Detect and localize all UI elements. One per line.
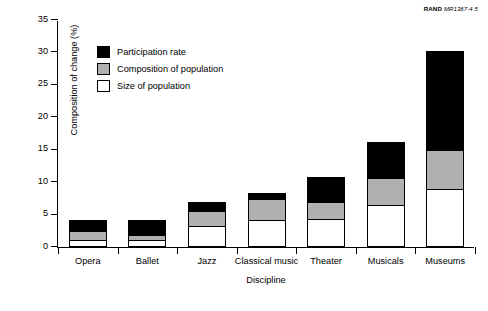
- x-axis-tick: [237, 247, 238, 254]
- bar-opera[interactable]: [69, 220, 107, 247]
- y-axis-tick: 30: [51, 51, 58, 52]
- bar-segment: [307, 177, 345, 202]
- bar-ballet[interactable]: [128, 220, 166, 247]
- rand-logo-text: RAND: [424, 5, 442, 12]
- bar-segment: [188, 202, 226, 212]
- x-axis-tick-label-museums: Museums: [425, 256, 465, 266]
- x-axis-tick-label-jazz: Jazz: [197, 256, 216, 266]
- y-axis-tick-label: 20: [38, 111, 48, 121]
- bar-segment: [426, 51, 464, 150]
- bar-segment: [307, 219, 345, 247]
- y-axis-tick-label: 35: [38, 14, 48, 24]
- legend-label-participation-rate: Participation rate: [117, 47, 186, 57]
- plot-area: Composition of change (%) 05101520253035…: [57, 21, 474, 248]
- figure: RANDMR1367-4.5 Composition of change (%)…: [0, 0, 488, 311]
- bar-musicals[interactable]: [367, 142, 405, 247]
- x-axis-tick-label-opera: Opera: [75, 256, 101, 266]
- bar-segment: [248, 199, 286, 220]
- y-axis-tick-label: 30: [38, 46, 48, 56]
- x-axis-tick-label-ballet: Ballet: [136, 256, 159, 266]
- source-credit: RANDMR1367-4.5: [424, 5, 478, 12]
- y-axis-tick: 35: [51, 19, 58, 20]
- bar-segment: [248, 220, 286, 247]
- legend-swatch-participation-rate: [97, 46, 110, 58]
- x-axis-tick: [475, 247, 476, 254]
- y-axis-tick: 10: [51, 181, 58, 182]
- legend-swatch-composition-of-population: [97, 63, 110, 75]
- bar-segment: [367, 178, 405, 205]
- x-axis-tick: [118, 247, 119, 254]
- y-axis-tick-label: 25: [38, 78, 48, 88]
- document-id: MR1367-4.5: [444, 6, 478, 12]
- legend-label-size-of-population: Size of population: [117, 81, 190, 91]
- legend-item-size-of-population: Size of population: [97, 77, 223, 94]
- x-axis-tick-label-musicals: Musicals: [368, 256, 404, 266]
- bar-museums[interactable]: [426, 51, 464, 247]
- y-axis-tick-label: 5: [43, 208, 48, 218]
- legend: Participation rate Composition of popula…: [97, 43, 223, 94]
- y-axis-tick: 0: [51, 246, 58, 247]
- legend-swatch-size-of-population: [97, 80, 110, 92]
- x-axis-label: Discipline: [58, 275, 474, 285]
- bar-segment: [188, 211, 226, 226]
- legend-label-composition-of-population: Composition of population: [117, 64, 223, 74]
- bar-segment: [307, 202, 345, 220]
- bar-segment: [367, 142, 405, 178]
- y-axis-tick: 5: [51, 214, 58, 215]
- bar-segment: [69, 220, 107, 231]
- bar-segment: [426, 189, 464, 247]
- y-axis-tick: 15: [51, 149, 58, 150]
- bar-segment: [69, 231, 107, 239]
- y-axis-tick-label: 10: [38, 176, 48, 186]
- bar-segment: [128, 220, 166, 236]
- x-axis-tick: [58, 247, 59, 254]
- bar-segment: [69, 240, 107, 247]
- bar-segment: [128, 240, 166, 247]
- bar-classical-music[interactable]: [248, 193, 286, 247]
- bar-segment: [367, 205, 405, 247]
- x-axis-tick: [415, 247, 416, 254]
- legend-item-participation-rate: Participation rate: [97, 43, 223, 60]
- bar-segment: [188, 226, 226, 247]
- bar-jazz[interactable]: [188, 202, 226, 247]
- legend-item-composition-of-population: Composition of population: [97, 60, 223, 77]
- y-axis-tick-label: 15: [38, 143, 48, 153]
- x-axis-tick-label-classical-music: Classical music: [235, 256, 298, 266]
- x-axis-tick: [177, 247, 178, 254]
- x-axis-tick: [356, 247, 357, 254]
- y-axis-tick-label: 0: [43, 241, 48, 251]
- y-axis-tick: 20: [51, 116, 58, 117]
- x-axis-tick: [296, 247, 297, 254]
- y-axis-tick: 25: [51, 84, 58, 85]
- bar-theater[interactable]: [307, 177, 345, 247]
- x-axis-tick-label-theater: Theater: [310, 256, 342, 266]
- y-axis-label: Composition of change (%): [69, 20, 79, 140]
- bar-segment: [426, 150, 464, 189]
